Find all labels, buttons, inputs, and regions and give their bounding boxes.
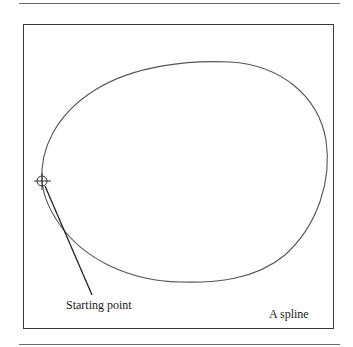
crosshair-icon: [34, 173, 51, 190]
spline-curve: [42, 62, 328, 283]
spline-drawing: [0, 0, 353, 347]
bottom-rule: [19, 344, 340, 345]
pointer-line: [45, 186, 92, 295]
starting-point-label: Starting point: [66, 299, 132, 311]
spline-caption: A spline: [269, 308, 309, 320]
